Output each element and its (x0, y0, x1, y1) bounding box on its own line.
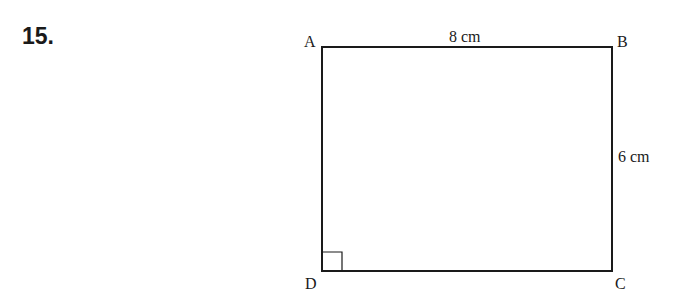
rectangle-abcd (322, 47, 612, 271)
side-label-bc: 6 cm (618, 149, 650, 165)
side-label-ab: 8 cm (449, 29, 481, 45)
vertex-label-b: B (617, 34, 628, 50)
right-angle-marker (322, 252, 342, 271)
vertex-label-c: C (615, 276, 626, 292)
vertex-label-d: D (305, 276, 317, 292)
vertex-label-a: A (304, 34, 316, 50)
rectangle-diagram (0, 0, 690, 297)
